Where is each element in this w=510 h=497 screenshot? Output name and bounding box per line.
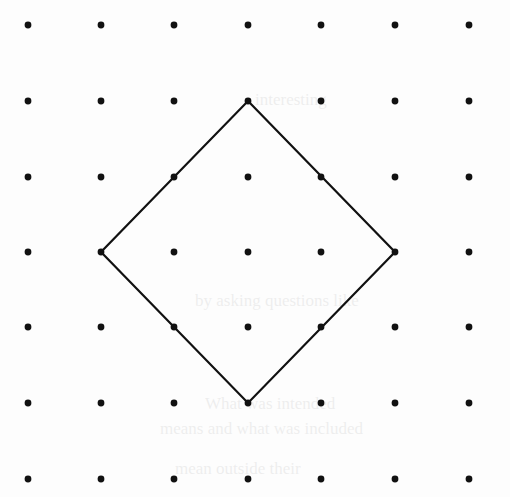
lattice-dot [98, 400, 105, 407]
lattice-dot [98, 98, 105, 105]
dot-grid-svg [0, 0, 510, 497]
lattice-dot [245, 324, 252, 331]
lattice-dot [318, 22, 325, 29]
lattice-dot [171, 22, 178, 29]
lattice-dot [98, 22, 105, 29]
lattice-dot [98, 249, 105, 256]
lattice-dot [25, 476, 32, 483]
lattice-dots [25, 22, 473, 483]
lattice-dot [98, 324, 105, 331]
lattice-dot [25, 98, 32, 105]
lattice-dot [466, 98, 473, 105]
lattice-dot [392, 249, 399, 256]
lattice-dot [466, 249, 473, 256]
lattice-dot [25, 324, 32, 331]
lattice-dot [25, 249, 32, 256]
lattice-dot [98, 476, 105, 483]
lattice-dot [25, 22, 32, 29]
dot-grid-diagram: interestingby asking questions likeWhat … [0, 0, 510, 497]
lattice-dot [392, 476, 399, 483]
lattice-dot [392, 22, 399, 29]
lattice-dot [318, 98, 325, 105]
lattice-dot [466, 476, 473, 483]
lattice-dot [171, 98, 178, 105]
lattice-dot [466, 174, 473, 181]
lattice-dot [245, 249, 252, 256]
lattice-dot [171, 400, 178, 407]
lattice-dot [245, 174, 252, 181]
lattice-dot [25, 400, 32, 407]
lattice-dot [171, 476, 178, 483]
lattice-dot [245, 98, 252, 105]
lattice-dot [318, 174, 325, 181]
lattice-dot [171, 174, 178, 181]
lattice-dot [245, 22, 252, 29]
lattice-dot [318, 476, 325, 483]
lattice-dot [318, 249, 325, 256]
lattice-dot [466, 22, 473, 29]
lattice-dot [466, 400, 473, 407]
lattice-dot [98, 174, 105, 181]
lattice-dot [392, 400, 399, 407]
lattice-dot [245, 476, 252, 483]
lattice-dot [392, 174, 399, 181]
lattice-dot [392, 98, 399, 105]
lattice-dot [318, 400, 325, 407]
lattice-dot [466, 324, 473, 331]
lattice-dot [245, 400, 252, 407]
lattice-dot [171, 324, 178, 331]
lattice-dot [318, 324, 325, 331]
lattice-dot [171, 249, 178, 256]
lattice-dot [392, 324, 399, 331]
lattice-dot [25, 174, 32, 181]
